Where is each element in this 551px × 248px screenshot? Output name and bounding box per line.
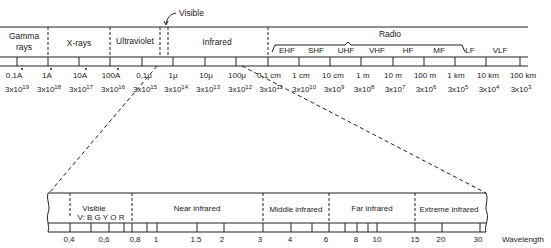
detail-tick-label: 1 — [154, 236, 158, 244]
wavelength-label: 0,1 cm — [257, 72, 281, 80]
detail-tick-label: 0,4 — [63, 236, 74, 244]
detail-region-extreme-infrared: Extreme infrared — [419, 206, 478, 214]
frequency-label: 3x1019 — [5, 86, 29, 94]
frequency-label: 3x108 — [354, 86, 375, 94]
wavelength-label: 10 cm — [322, 72, 344, 80]
detail-tick-label: 0,6 — [98, 236, 109, 244]
wavelength-label: 0,1μ — [136, 72, 152, 80]
wavelength-label: 100 m — [414, 72, 436, 80]
wavelength-label: 0,1A — [6, 72, 22, 80]
frequency-label: 3x104 — [479, 86, 500, 94]
wavelength-label: 1 m — [356, 72, 369, 80]
region-gamma-rays-line2: rays — [16, 43, 32, 52]
frequency-label: 3x1010 — [292, 86, 316, 94]
wavelength-label: 10μ — [199, 72, 213, 80]
visible-callout-label: Visible — [179, 9, 204, 18]
wavelength-label: 1 km — [447, 72, 464, 80]
region-radio: Radio — [379, 30, 401, 39]
frequency-label: 3x1014 — [164, 86, 188, 94]
frequency-label: 3x1013 — [196, 86, 220, 94]
frequency-label: 3x1011 — [259, 86, 283, 94]
wavelength-label: 1μ — [168, 72, 177, 80]
region-gamma-rays-line1: Gamma — [9, 32, 39, 41]
detail-tick-label: 8 — [354, 236, 358, 244]
region-x-rays: X-rays — [67, 39, 92, 48]
detail-tick-label: 15 — [411, 236, 420, 244]
radio-band-vhf: VHF — [369, 47, 385, 55]
frequency-label: 3x1016 — [101, 86, 125, 94]
wavelength-label: 1 cm — [292, 72, 309, 80]
frequency-label: 3x1017 — [69, 86, 93, 94]
wavelength-label: 10A — [73, 72, 87, 80]
frequency-label: 3x103 — [511, 86, 532, 94]
detail-tick-label: 0,8 — [129, 236, 140, 244]
wavelength-label: 100 km — [510, 72, 536, 80]
wavelength-label: 10 m — [384, 72, 402, 80]
detail-region-far-infrared: Far infrared — [351, 205, 392, 213]
detail-region-middle-infrared: Middle infrared — [270, 206, 323, 214]
detail-region-visible: Visible — [82, 205, 105, 213]
radio-band-uhf: UHF — [338, 47, 354, 55]
radio-band-mf: MF — [433, 47, 445, 55]
region-ultraviolet: Ultraviolet — [116, 37, 154, 46]
region-infrared: Infrared — [202, 38, 231, 47]
frequency-label: 3x107 — [385, 86, 406, 94]
detail-tick-label: 30 — [474, 236, 483, 244]
radio-band-ehf: EHF — [279, 47, 295, 55]
detail-tick-label: 10 — [373, 236, 382, 244]
detail-tick-label: 3 — [258, 236, 262, 244]
frequency-label: 3x105 — [448, 86, 469, 94]
wavelength-label: 100A — [102, 72, 121, 80]
detail-tick-label: 1.5 — [190, 236, 201, 244]
frequency-label: 3x1015 — [133, 86, 157, 94]
frequency-label: 3x109 — [324, 86, 345, 94]
radio-band-lf: LF — [465, 47, 474, 55]
frequency-label: 3x106 — [416, 86, 437, 94]
detail-tick-label: 6 — [324, 236, 328, 244]
detail-region-near-infrared: Near infrared — [174, 205, 221, 213]
detail-visible-colors: V: B G Y O R — [78, 214, 125, 222]
wavelength-label: 100μ — [228, 72, 246, 80]
wavelength-label: 1A — [42, 72, 52, 80]
detail-tick-label: 20 — [437, 236, 446, 244]
radio-band-vlf: VLF — [493, 47, 508, 55]
radio-band-hf: HF — [403, 47, 414, 55]
wavelength-axis-label: Wavelength — [502, 236, 544, 244]
radio-band-shf: SHF — [308, 47, 324, 55]
frequency-label: 3x1012 — [228, 86, 252, 94]
frequency-label: 3x1018 — [37, 86, 61, 94]
detail-tick-label: 2 — [220, 236, 224, 244]
detail-tick-label: 4 — [288, 236, 292, 244]
wavelength-label: 10 km — [477, 72, 499, 80]
